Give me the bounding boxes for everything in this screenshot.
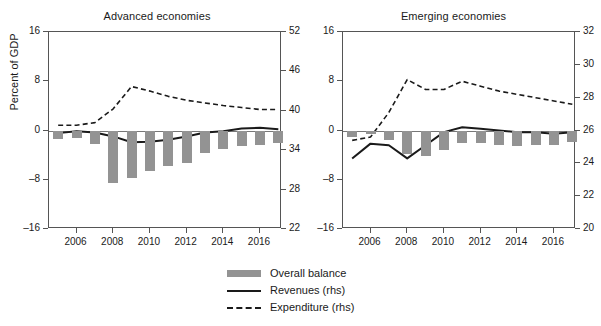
x-tick-label: 2012 [166, 236, 206, 247]
y-tick-label-right: 20 [583, 223, 594, 233]
y-tick-label-left: 8 [302, 75, 334, 85]
x-tick-label: 2006 [56, 236, 96, 247]
y-tick-label-right: 32 [583, 26, 594, 36]
legend-label: Revenues (rhs) [270, 284, 345, 296]
y-tick-mark-right [575, 64, 580, 65]
legend: Overall balance Revenues (rhs) Expenditu… [0, 264, 601, 315]
y-tick-mark-left [43, 179, 48, 180]
x-tick-mark [112, 228, 113, 233]
y-tick-label-right: 52 [289, 26, 300, 36]
x-tick-label: 2008 [92, 236, 132, 247]
legend-dashed-line [227, 301, 261, 313]
y-tick-label-left: 16 [302, 26, 334, 36]
x-tick-mark [553, 228, 554, 233]
bar-overall-balance [182, 131, 192, 164]
bar-overall-balance [512, 131, 522, 146]
y-tick-mark-right [575, 130, 580, 131]
y-tick-mark-right [281, 110, 286, 111]
x-tick-label: 2006 [350, 236, 390, 247]
y-tick-mark-right [281, 228, 286, 229]
y-tick-mark-right [575, 31, 580, 32]
bar-overall-balance [476, 131, 486, 144]
bar-overall-balance [402, 131, 412, 154]
x-tick-mark [370, 228, 371, 233]
panel-advanced-economies: Advanced economies Percent of GDP –16–80… [0, 0, 300, 260]
y-tick-label-right: 22 [289, 223, 300, 233]
y-tick-label-left: –8 [302, 174, 334, 184]
legend-solid-line [227, 284, 261, 296]
bar-overall-balance [127, 131, 137, 178]
bar-overall-balance [347, 131, 357, 138]
y-tick-label-left: 16 [8, 26, 40, 36]
figure: Advanced economies Percent of GDP –16–80… [0, 0, 601, 326]
bar-overall-balance [384, 131, 394, 141]
bar-overall-balance [273, 131, 283, 143]
bar-overall-balance [108, 131, 118, 184]
plot-area [342, 31, 575, 228]
bar-overall-balance [218, 131, 228, 149]
x-tick-label: 2014 [496, 236, 536, 247]
bar-overall-balance [145, 131, 155, 171]
x-tick-label: 2010 [423, 236, 463, 247]
x-tick-mark [480, 228, 481, 233]
x-tick-label: 2008 [386, 236, 426, 247]
plot-area [48, 31, 281, 228]
x-tick-mark [516, 228, 517, 233]
legend-label: Expenditure (rhs) [270, 301, 354, 313]
x-tick-mark [149, 228, 150, 233]
y-tick-mark-right [281, 149, 286, 150]
y-tick-label-right: 22 [583, 190, 594, 200]
x-tick-label: 2012 [460, 236, 500, 247]
bar-overall-balance [90, 131, 100, 145]
bar-overall-balance [255, 131, 265, 145]
bar-overall-balance [72, 131, 82, 138]
y-tick-mark-right [575, 195, 580, 196]
y-tick-label-right: 34 [289, 144, 300, 154]
x-tick-label: 2016 [239, 236, 279, 247]
y-tick-label-left: –16 [302, 223, 334, 233]
legend-bar-swatch [227, 267, 261, 279]
x-tick-mark [259, 228, 260, 233]
y-tick-mark-right [281, 70, 286, 71]
y-tick-mark-left [337, 31, 342, 32]
y-tick-label-left: 8 [8, 75, 40, 85]
y-tick-mark-left [337, 228, 342, 229]
x-tick-label: 2016 [533, 236, 573, 247]
bar-overall-balance [549, 131, 559, 145]
x-tick-mark [406, 228, 407, 233]
y-tick-label-right: 28 [289, 184, 300, 194]
bar-overall-balance [421, 131, 431, 157]
y-tick-mark-left [337, 179, 342, 180]
bar-overall-balance [237, 131, 247, 146]
bar-overall-balance [200, 131, 210, 153]
y-tick-label-right: 28 [583, 92, 594, 102]
y-tick-label-left: –16 [8, 223, 40, 233]
y-tick-label-right: 46 [289, 65, 300, 75]
panel-emerging-economies: Emerging economies –16–80816202224262830… [300, 0, 601, 260]
legend-item: Revenues (rhs) [0, 281, 601, 298]
y-tick-mark-left [43, 228, 48, 229]
y-tick-label-right: 26 [583, 125, 594, 135]
x-tick-label: 2014 [202, 236, 242, 247]
y-tick-mark-left [337, 80, 342, 81]
x-tick-mark [186, 228, 187, 233]
x-tick-mark [222, 228, 223, 233]
y-tick-mark-left [43, 130, 48, 131]
bar-overall-balance [439, 131, 449, 150]
line-expenditure [58, 87, 278, 126]
y-tick-mark-right [575, 97, 580, 98]
legend-item: Expenditure (rhs) [0, 298, 601, 315]
y-tick-label-left: 0 [302, 125, 334, 135]
y-tick-mark-right [281, 189, 286, 190]
x-tick-mark [76, 228, 77, 233]
y-tick-label-right: 40 [289, 105, 300, 115]
x-tick-mark [443, 228, 444, 233]
panel-title: Advanced economies [0, 10, 300, 22]
bar-overall-balance [494, 131, 504, 145]
legend-label: Overall balance [270, 267, 346, 279]
bar-overall-balance [567, 131, 577, 143]
bar-overall-balance [53, 131, 63, 139]
y-tick-mark-right [575, 162, 580, 163]
bar-overall-balance [457, 131, 467, 143]
bar-overall-balance [366, 131, 376, 135]
